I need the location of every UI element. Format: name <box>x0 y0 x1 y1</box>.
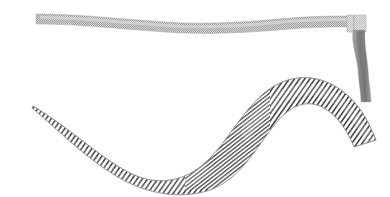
band-cuff <box>347 15 366 32</box>
band-cuff-group <box>347 15 366 32</box>
illustration-canvas <box>0 0 390 197</box>
hatched-ribbon-figure <box>0 0 390 197</box>
